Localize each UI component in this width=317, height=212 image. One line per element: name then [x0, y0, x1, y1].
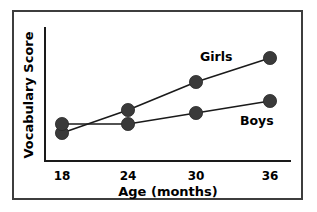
data-point-girls-30 [189, 75, 202, 88]
data-point-girls-36 [263, 51, 276, 64]
x-axis-title: Age (months) [118, 184, 218, 199]
series-label-girls: Girls [200, 49, 232, 64]
data-point-boys-18 [55, 117, 68, 130]
vocabulary-score-line-chart: Girls Boys 18 24 30 36 Age (months) Voca… [0, 0, 317, 212]
chart-screenshot: Girls Boys 18 24 30 36 Age (months) Voca… [0, 0, 317, 212]
x-tick-label-36: 36 [262, 169, 279, 183]
data-point-girls-24 [121, 103, 134, 116]
data-point-boys-30 [189, 106, 202, 119]
data-point-boys-24 [121, 117, 134, 130]
data-point-boys-36 [263, 94, 276, 107]
x-tick-label-18: 18 [54, 169, 71, 183]
y-axis-title: Vocabulary Score [21, 31, 36, 158]
series-label-boys: Boys [240, 113, 274, 128]
series-line-girls [62, 58, 270, 133]
x-tick-label-24: 24 [120, 169, 137, 183]
series-line-boys [62, 101, 270, 124]
x-tick-label-30: 30 [188, 169, 205, 183]
